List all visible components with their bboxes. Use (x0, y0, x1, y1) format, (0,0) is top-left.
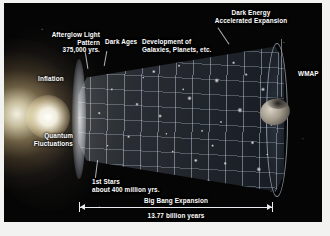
satellite-mast (281, 39, 282, 97)
cmb-wall-icon (72, 59, 86, 179)
figure-plate: Afterglow Light Pattern 375,000 yrs. Dar… (4, 3, 322, 222)
label-dark-ages: Dark Ages (105, 38, 137, 46)
label-inflation: Inflation (38, 75, 64, 83)
expansion-cone (74, 45, 284, 193)
label-afterglow-light-pattern: Afterglow Light Pattern 375,000 yrs. (20, 31, 100, 54)
timeline-arrow-right (267, 204, 272, 210)
satellite-shadow (267, 95, 289, 109)
leader-line-dark-energy (217, 27, 229, 44)
label-wmap: WMAP (298, 70, 319, 78)
timeline-line (79, 207, 273, 208)
label-universe-age: 13.77 billion years (79, 212, 273, 220)
cosmic-timeline-figure: Afterglow Light Pattern 375,000 yrs. Dar… (0, 0, 330, 236)
timeline-cap-right (272, 202, 273, 212)
label-dark-energy: Dark Energy Accelerated Expansion (207, 9, 295, 24)
label-development-of-galaxies: Development of Galaxies, Planets, etc. (142, 38, 211, 53)
cone-grid-mesh (74, 45, 284, 193)
label-quantum-fluctuations: Quantum Fluctuations (25, 132, 73, 147)
timeline-arrow (79, 206, 273, 208)
label-first-stars: 1st Stars about 400 million yrs. (92, 178, 160, 193)
timeline-arrow-left (80, 204, 85, 210)
label-big-bang-expansion: Big Bang Expansion (79, 197, 273, 205)
wmap-satellite-icon (260, 95, 296, 129)
